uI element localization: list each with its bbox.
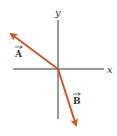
vector-b-label: B — [73, 96, 81, 106]
x-axis-label: x — [107, 64, 113, 75]
vector-diagram: x y A B — [0, 0, 117, 136]
vector-a-label-group: A — [14, 46, 23, 60]
vector-a-label: A — [14, 49, 23, 59]
y-axis-label: y — [54, 7, 61, 18]
vector-b-label-group: B — [73, 93, 81, 107]
